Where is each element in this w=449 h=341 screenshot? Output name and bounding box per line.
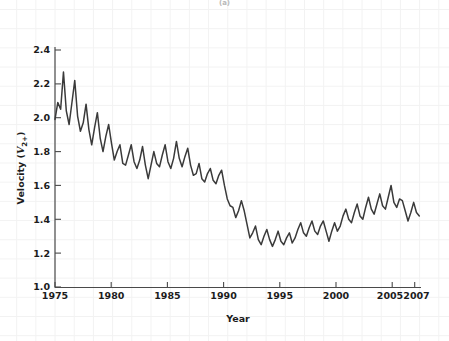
svg-text:Velocity (V2+): Velocity (V2+) [15, 132, 29, 205]
x-tick-label-2007: 2007 [403, 290, 429, 301]
y-tick-label-2.2: 2.2 [33, 78, 50, 89]
y-tick-label-2.0: 2.0 [33, 112, 50, 123]
x-tick-label-2000: 2000 [323, 290, 350, 301]
x-tick-label-1980: 1980 [98, 290, 125, 301]
y-tick-group [55, 50, 61, 287]
x-tick-group [55, 282, 415, 288]
y-axis-title-subscript: 2+ [21, 136, 29, 147]
x-tick-label-1990: 1990 [210, 290, 237, 301]
panel-label: (a) [0, 0, 449, 6]
y-tick-label-1.4: 1.4 [33, 214, 50, 225]
y-axis-title: Velocity (V2+) [15, 132, 29, 205]
y-tick-labels: 2.4 2.2 2.0 1.8 1.6 1.4 1.2 1.0 [33, 44, 50, 292]
x-tick-label-1975: 1975 [42, 290, 68, 301]
x-tick-label-2005: 2005 [377, 290, 403, 301]
velocity-time-series-chart: 2.4 2.2 2.0 1.8 1.6 1.4 1.2 1.0 1975 198… [0, 0, 449, 341]
figure-container: (a) 2.4 2.2 2.0 1.8 1.6 1.4 [0, 0, 449, 341]
axes-group [55, 47, 421, 288]
velocity-series-line [55, 72, 419, 246]
y-tick-label-1.2: 1.2 [33, 248, 50, 259]
y-tick-label-1.6: 1.6 [33, 180, 50, 191]
x-axis-title: Year [225, 313, 250, 324]
x-tick-labels: 1975 1980 1985 1990 1995 2000 2005 2007 [42, 290, 430, 301]
y-tick-label-1.8: 1.8 [33, 146, 50, 157]
x-tick-label-1985: 1985 [154, 290, 180, 301]
y-axis-title-main: Velocity ( [15, 154, 26, 204]
y-axis-title-close: ) [15, 132, 26, 136]
y-tick-label-2.4: 2.4 [33, 44, 50, 55]
x-tick-label-1995: 1995 [267, 290, 293, 301]
